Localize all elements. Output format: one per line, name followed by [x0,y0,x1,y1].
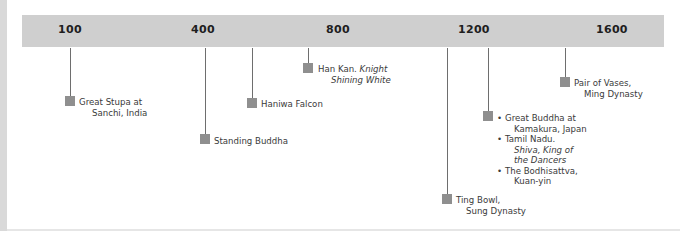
tick-1600: 1600 [596,23,628,36]
marker-great-stupa [65,96,75,106]
list-item-great-buddha: Great Buddha at Kamakura, Japan [497,113,587,134]
stem-great-stupa [70,48,71,98]
event-ting-bowl: Ting Bowl, Sung Dynasty [456,195,526,216]
event-great-stupa: Great Stupa at Sanchi, India [79,97,147,118]
event-haniwa-falcon: Haniwa Falcon [261,99,323,110]
stem-standing-buddha [205,48,206,135]
marker-pair-of-vases [560,77,570,87]
stem-ting-bowl [447,48,448,195]
event-group-list: Great Buddha at Kamakura, Japan Tamil Na… [497,113,587,187]
tick-100: 100 [58,23,82,36]
marker-haniwa-falcon [247,98,257,108]
stem-kamakura-group [488,48,489,112]
tick-400: 400 [191,23,215,36]
list-item-bodhisattva: The Bodhisattva, Kuan-yin [497,166,587,187]
tick-800: 800 [326,23,350,36]
marker-standing-buddha [200,134,210,144]
stem-haniwa-falcon [252,48,253,98]
event-han-kan: Han Kan. Knight Shining White [318,64,391,85]
event-standing-buddha: Standing Buddha [214,136,288,147]
bottom-divider [7,229,680,231]
stem-pair-of-vases [565,48,566,78]
tick-1200: 1200 [458,23,490,36]
marker-kamakura-group [483,111,493,121]
marker-ting-bowl [442,194,452,204]
stem-han-kan [308,48,309,64]
marker-han-kan [303,63,313,73]
left-edge-strip [0,0,7,231]
list-item-tamil-nadu: Tamil Nadu. Shiva, King of the Dancers [497,134,587,166]
event-pair-of-vases: Pair of Vases, Ming Dynasty [574,78,643,99]
